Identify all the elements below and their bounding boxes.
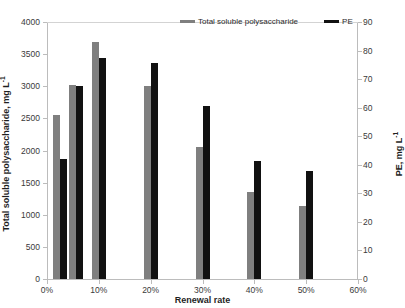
legend-swatch-icon [324,20,339,23]
y2-axis-tick-label: 70 [363,74,393,84]
bar-pe-0pct [60,159,67,279]
y2-axis-tick-label: 50 [363,131,393,141]
x-axis-tick-label: 20% [131,285,171,295]
y-axis-title-right: PE, mg L-1 [391,0,405,308]
y-axis-tick-label: 500 [0,242,40,252]
y-axis-tick-label: 2000 [0,146,40,156]
y-axis-tick-label: 4000 [0,17,40,27]
y-axis-tick-label: 3500 [0,49,40,59]
plot-area [47,22,358,279]
y2-axis-tick-mark [358,165,362,166]
y-axis-tick-label: 1500 [0,178,40,188]
y2-axis-tick-label: 0 [363,274,393,284]
y-axis-tick-mark [43,118,47,119]
y-axis-tick-label: 2500 [0,113,40,123]
y2-axis-tick-label: 10 [363,245,393,255]
x-axis-tick-label: 30% [183,285,223,295]
legend-label: PE [342,17,353,26]
y2-axis-tick-label: 30 [363,188,393,198]
bar-total-soluble-polysaccharide-40pct [247,192,254,279]
y2-axis-tick-mark [358,193,362,194]
legend-entry-2[interactable]: PE [324,17,353,26]
bar-total-soluble-polysaccharide-10pct [92,42,99,279]
y2-axis-tick-label: 20 [363,217,393,227]
x-axis-tick-mark [99,280,100,284]
x-axis-tick-label: 0% [27,285,67,295]
y-axis-tick-mark [43,86,47,87]
bar-pe-10pct [99,58,106,279]
y2-axis-tick-mark [358,51,362,52]
bar-pe-30pct [203,106,210,279]
y2-axis-tick-mark [358,222,362,223]
y2-axis-tick-label: 90 [363,17,393,27]
bar-pe-5pct [76,86,83,279]
y-axis-tick-mark [43,215,47,216]
y-axis-tick-mark [43,54,47,55]
y2-axis-tick-mark [358,250,362,251]
bar-pe-50pct [306,171,313,280]
x-axis-tick-mark [358,280,359,284]
y2-axis-tick-mark [358,22,362,23]
y-axis-tick-mark [43,247,47,248]
x-axis-tick-label: 10% [79,285,119,295]
bar-total-soluble-polysaccharide-5pct [69,85,76,279]
chart-legend: Total soluble polysaccharidePE [180,17,353,26]
x-axis-tick-mark [151,280,152,284]
y2-axis-tick-label: 80 [363,46,393,56]
bar-total-soluble-polysaccharide-0pct [53,115,60,279]
x-axis-tick-label: 40% [234,285,274,295]
y-axis-tick-mark [43,22,47,23]
y2-axis-tick-mark [358,108,362,109]
y2-axis-tick-label: 40 [363,160,393,170]
bar-pe-20pct [151,63,158,279]
legend-label: Total soluble polysaccharide [198,17,298,26]
x-axis-tick-label: 50% [286,285,326,295]
x-axis-tick-mark [306,280,307,284]
y-axis-title-right-exponent: -1 [392,132,399,138]
legend-swatch-icon [180,20,195,23]
bar-total-soluble-polysaccharide-30pct [196,147,203,279]
bar-pe-40pct [254,161,261,280]
x-axis-tick-mark [203,280,204,284]
bar-total-soluble-polysaccharide-50pct [299,206,306,279]
y-axis-tick-label: 1000 [0,210,40,220]
y-axis-tick-mark [43,183,47,184]
y2-axis-tick-mark [358,136,362,137]
legend-entry-1[interactable]: Total soluble polysaccharide [180,17,298,26]
x-axis-title: Renewal rate [47,295,358,305]
y-axis-title-right-text: PE, mg L [394,138,404,177]
y2-axis-tick-mark [358,79,362,80]
x-axis-tick-mark [47,280,48,284]
x-axis-tick-label: 60% [338,285,378,295]
y-axis-tick-label: 0 [0,274,40,284]
y-axis-tick-label: 3000 [0,81,40,91]
bar-total-soluble-polysaccharide-20pct [144,86,151,279]
y2-axis-tick-label: 60 [363,103,393,113]
y-axis-tick-mark [43,151,47,152]
x-axis-tick-mark [254,280,255,284]
